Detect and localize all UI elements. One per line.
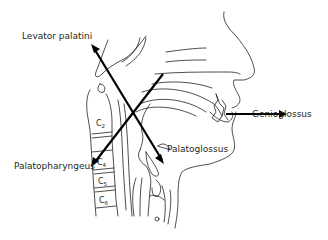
palatopharyngeus-arrow-line [95, 74, 163, 162]
vertebra-c6-label: C6 [99, 196, 109, 206]
levator-palatini-arrow-line [95, 50, 162, 160]
palatoglossus-label: Palatoglossus [167, 145, 228, 154]
vertebra-c5-label: C5 [98, 177, 108, 187]
vertebra-c2-label: C2 [96, 119, 105, 129]
palate-tongue [136, 89, 233, 122]
levator-palatini-label: Levator palatini [22, 32, 92, 41]
nasal-cavity [152, 48, 240, 88]
palatopharyngeus-label: Palatopharyngeus [14, 162, 95, 171]
vertebra-c4-label: C4 [97, 158, 107, 168]
levator-palatini-arrowhead-icon [91, 44, 100, 53]
genioglossus-label: Genioglossus [252, 110, 312, 119]
vertebral-column: C2 C4 C5 C6 [87, 90, 132, 216]
